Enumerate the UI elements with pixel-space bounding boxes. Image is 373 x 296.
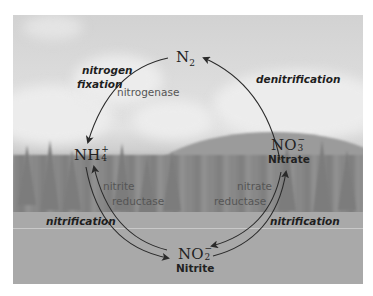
- node-nh4: NH+4: [74, 146, 109, 165]
- label-nitrite-reductase-line1: nitrite: [103, 180, 135, 192]
- label-nitrification-left: nitrification: [46, 215, 116, 227]
- label-nitrate-reductase-line2: reductase: [214, 195, 266, 207]
- label-nitrite-reductase-line2: reductase: [112, 195, 164, 207]
- label-nitrogen-fixation-line2: fixation: [77, 78, 122, 90]
- label-nitrogenase: nitrogenase: [117, 86, 179, 98]
- label-nitrification-right: nitrification: [270, 215, 340, 227]
- node-n2: N2: [176, 48, 195, 68]
- label-denitrification: denitrification: [256, 73, 340, 85]
- label-nitrate-reductase-line1: nitrate: [237, 180, 272, 192]
- node-no3-name: Nitrate: [268, 153, 310, 165]
- label-nitrogen-fixation-line1: nitrogen: [82, 64, 133, 76]
- node-no2-name: Nitrite: [176, 262, 214, 274]
